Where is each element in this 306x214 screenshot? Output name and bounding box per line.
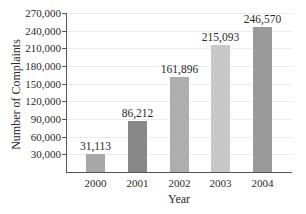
bar-2000 bbox=[86, 154, 105, 172]
y-tick-label: 150,000 bbox=[25, 79, 61, 90]
bar-value-label: 246,570 bbox=[233, 13, 293, 25]
y-tick-label: 60,000 bbox=[31, 132, 61, 143]
bar-value-label: 215,093 bbox=[191, 31, 251, 43]
bar-value-label: 161,896 bbox=[150, 63, 210, 75]
bar-2004 bbox=[253, 27, 272, 172]
x-tick-label: 2002 bbox=[160, 177, 200, 189]
x-tick-label: 2001 bbox=[118, 177, 158, 189]
y-tick-label: 180,000 bbox=[25, 61, 61, 72]
bar-2002 bbox=[170, 77, 189, 172]
y-axis-label: Number of Complaints bbox=[9, 35, 24, 155]
x-tick-label: 2000 bbox=[76, 177, 116, 189]
bar-value-label: 31,113 bbox=[66, 140, 126, 152]
bar-2003 bbox=[211, 45, 230, 172]
y-tick-label: 120,000 bbox=[25, 96, 61, 107]
bar-2001 bbox=[128, 121, 147, 172]
x-tick-label: 2003 bbox=[201, 177, 241, 189]
x-axis-line bbox=[66, 172, 292, 173]
y-tick-label: 210,000 bbox=[25, 43, 61, 54]
x-tick-label: 2004 bbox=[243, 177, 283, 189]
x-axis-label: Year bbox=[159, 192, 199, 207]
y-tick-label: 90,000 bbox=[31, 114, 61, 125]
y-tick-label: 270,000 bbox=[25, 8, 61, 19]
y-tick-label: 30,000 bbox=[31, 149, 61, 160]
bar-value-label: 86,212 bbox=[108, 107, 168, 119]
y-tick-label: 240,000 bbox=[25, 26, 61, 37]
